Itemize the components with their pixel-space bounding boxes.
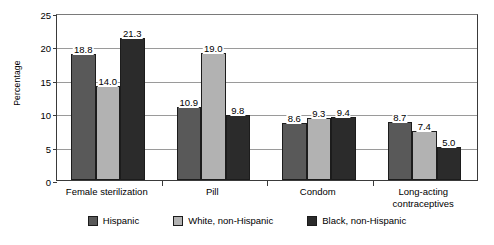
bar-value-label: 14.0 (98, 76, 119, 87)
bar (388, 122, 413, 180)
bar-value-label: 8.7 (392, 112, 407, 123)
x-category-label-line: Long-acting (393, 186, 454, 198)
bar (201, 53, 226, 180)
legend-label: White, non-Hispanic (188, 215, 273, 226)
bar (307, 118, 332, 180)
y-tick-mark (53, 82, 57, 83)
plot-area: 051015202518.814.021.310.919.09.88.69.39… (56, 14, 478, 181)
legend-item[interactable]: White, non-Hispanic (173, 215, 273, 226)
x-category-label-line: Female sterilization (66, 186, 148, 198)
bar-value-label: 9.3 (311, 108, 326, 119)
x-category-label: Pill (206, 186, 219, 198)
x-category-label: Long-actingcontraceptives (393, 186, 454, 210)
bar-value-label: 7.4 (417, 121, 432, 132)
legend-swatch-icon (88, 216, 98, 226)
y-tick-label: 0 (46, 177, 51, 188)
bar-value-label: 9.4 (336, 107, 351, 118)
bar (71, 54, 96, 180)
bar-value-label: 10.9 (179, 97, 200, 108)
y-tick-label: 10 (40, 110, 51, 121)
bar-chart: Percentage 051015202518.814.021.310.919.… (0, 0, 494, 245)
y-tick-label: 25 (40, 10, 51, 21)
y-tick-label: 5 (46, 143, 51, 154)
x-tick-mark (373, 181, 374, 186)
bar-value-label: 18.8 (73, 44, 94, 55)
y-tick-mark (53, 48, 57, 49)
bar (412, 131, 437, 180)
bar (331, 117, 356, 180)
y-tick-label: 20 (40, 43, 51, 54)
x-tick-mark (162, 181, 163, 186)
y-tick-label: 15 (40, 76, 51, 87)
bar-value-label: 5.0 (441, 137, 456, 148)
bar (282, 123, 307, 180)
bar (226, 115, 251, 180)
legend-label: Hispanic (103, 215, 139, 226)
bar (120, 38, 145, 180)
bar-value-label: 9.8 (230, 105, 245, 116)
x-tick-mark (267, 181, 268, 186)
bar-value-label: 19.0 (203, 43, 224, 54)
x-category-label: Condom (300, 186, 336, 198)
legend-item[interactable]: Black, non-Hispanic (307, 215, 406, 226)
legend-item[interactable]: Hispanic (88, 215, 139, 226)
y-tick-mark (53, 149, 57, 150)
y-tick-mark (53, 182, 57, 183)
bar (177, 107, 202, 180)
x-category-label-line: Condom (300, 186, 336, 198)
x-category-label-line: Pill (206, 186, 219, 198)
y-tick-mark (53, 115, 57, 116)
legend-label: Black, non-Hispanic (322, 215, 406, 226)
chart-legend: HispanicWhite, non-HispanicBlack, non-Hi… (0, 215, 494, 226)
bar-value-label: 8.6 (287, 113, 302, 124)
y-tick-mark (53, 15, 57, 16)
legend-swatch-icon (173, 216, 183, 226)
y-axis-title: Percentage (12, 48, 22, 118)
bar (96, 86, 121, 180)
bar (437, 147, 462, 180)
x-category-label-line: contraceptives (393, 198, 454, 210)
bar-value-label: 21.3 (122, 28, 143, 39)
x-category-label: Female sterilization (66, 186, 148, 198)
legend-swatch-icon (307, 216, 317, 226)
